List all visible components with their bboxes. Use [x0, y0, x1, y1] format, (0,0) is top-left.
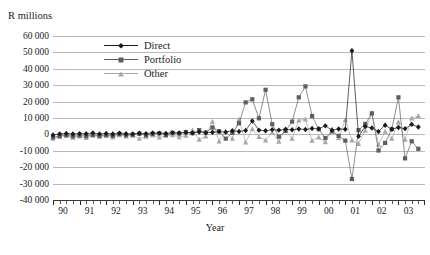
- y-axis-unit-label: R millions: [8, 10, 52, 21]
- data-point-square: [224, 137, 228, 141]
- x-axis-tick: [93, 201, 94, 204]
- legend-line: [104, 45, 138, 46]
- data-point-triangle: [250, 126, 255, 131]
- data-point-triangle: [383, 129, 388, 134]
- x-axis-tick-labels: 9091929394959697989900010203: [53, 206, 425, 220]
- data-point-square: [277, 135, 281, 139]
- data-point-diamond: [416, 124, 421, 129]
- x-axis-tick: [219, 201, 220, 204]
- x-axis-tick: [279, 201, 280, 204]
- data-point-square: [370, 111, 374, 115]
- data-point-square: [396, 95, 400, 99]
- x-axis-tick: [139, 201, 140, 204]
- x-axis-tick: [179, 201, 180, 204]
- data-point-triangle: [409, 116, 414, 121]
- y-axis-tick-label: -10 000: [2, 146, 49, 156]
- x-axis-tick: [126, 201, 127, 204]
- x-axis-tick: [60, 201, 61, 204]
- data-point-square: [257, 116, 261, 120]
- data-point-triangle: [349, 138, 354, 143]
- legend-line: [104, 73, 138, 74]
- x-axis-tick: [80, 201, 81, 205]
- x-axis-tick: [226, 201, 227, 204]
- x-axis-tick: [292, 201, 293, 205]
- x-axis-tick: [53, 201, 54, 205]
- x-axis-tick-label: 91: [85, 206, 95, 216]
- data-point-diamond: [403, 126, 408, 131]
- x-axis-tick: [146, 201, 147, 204]
- x-axis-tick: [345, 201, 346, 205]
- x-axis-tick: [66, 201, 67, 204]
- x-axis-tick: [392, 201, 393, 204]
- legend-line: [104, 59, 138, 60]
- x-axis-tick: [412, 201, 413, 204]
- y-axis-tick-label: 10 000: [2, 113, 49, 123]
- data-point-square: [350, 177, 354, 181]
- data-point-square: [297, 95, 301, 99]
- x-axis-tick: [100, 201, 101, 204]
- x-axis-tick: [86, 201, 87, 204]
- figure-title-clipped: [8, 0, 428, 6]
- x-axis-tick: [319, 201, 320, 205]
- x-axis-tick: [113, 201, 114, 204]
- x-axis-tick: [418, 201, 419, 204]
- x-axis-tick: [272, 201, 273, 204]
- x-axis-tick: [266, 201, 267, 205]
- chart-root: R millions 60 00050 00040 00030 00020 00…: [0, 0, 430, 255]
- x-axis-tick: [173, 201, 174, 204]
- y-axis-tick-label: -20 000: [2, 162, 49, 172]
- legend-marker-square-icon: [119, 57, 124, 62]
- x-axis-tick: [186, 201, 187, 205]
- x-axis-tick: [372, 201, 373, 205]
- data-point-square: [250, 97, 254, 101]
- x-axis-tick-label: 94: [165, 206, 175, 216]
- x-axis-tick-label: 95: [191, 206, 201, 216]
- x-axis-tick: [259, 201, 260, 204]
- data-point-square: [403, 156, 407, 160]
- x-axis-tick: [246, 201, 247, 204]
- x-axis-tick: [159, 201, 160, 205]
- data-point-diamond: [303, 127, 308, 132]
- legend-item-other[interactable]: Other: [104, 67, 212, 80]
- data-point-triangle: [416, 113, 421, 118]
- data-point-square: [410, 139, 414, 143]
- y-axis-tick-labels: 60 00050 00040 00030 00020 00010 0000-10…: [0, 36, 49, 200]
- data-point-diamond: [323, 123, 328, 128]
- x-axis-tick-label: 98: [271, 206, 281, 216]
- data-point-diamond: [343, 127, 348, 132]
- legend-item-direct[interactable]: Direct: [104, 39, 212, 52]
- data-point-square: [244, 100, 248, 104]
- data-point-triangle: [210, 119, 215, 124]
- data-point-diamond: [369, 125, 374, 130]
- x-axis-tick: [299, 201, 300, 204]
- data-point-square: [383, 141, 387, 145]
- x-axis-tick-label: 00: [324, 206, 334, 216]
- x-axis-tick-label: 92: [111, 206, 121, 216]
- data-point-square: [270, 122, 274, 126]
- data-point-triangle: [316, 135, 321, 140]
- x-axis-tick: [398, 201, 399, 205]
- legend-marker-diamond-icon: [118, 42, 124, 48]
- data-point-diamond: [210, 130, 215, 135]
- x-axis-tick: [252, 201, 253, 204]
- legend-label: Direct: [144, 40, 170, 51]
- x-axis-tick: [359, 201, 360, 204]
- data-point-triangle: [343, 117, 348, 122]
- x-axis-tick: [153, 201, 154, 204]
- x-axis-tick: [424, 201, 425, 205]
- data-point-square: [356, 128, 360, 132]
- x-axis-tick-label: 01: [351, 206, 361, 216]
- x-axis-tick: [352, 201, 353, 204]
- y-axis-tick-label: 50 000: [2, 47, 49, 57]
- legend-item-portfolio[interactable]: Portfolio: [104, 53, 212, 66]
- data-point-square: [416, 147, 420, 151]
- x-axis-tick: [206, 201, 207, 204]
- data-point-square: [303, 84, 307, 88]
- data-point-square: [310, 114, 314, 118]
- x-axis-tick: [325, 201, 326, 204]
- x-axis-title: Year: [0, 222, 430, 233]
- data-point-square: [290, 120, 294, 124]
- data-point-square: [343, 139, 347, 143]
- data-point-square: [210, 125, 214, 129]
- x-axis-tick-label: 02: [377, 206, 387, 216]
